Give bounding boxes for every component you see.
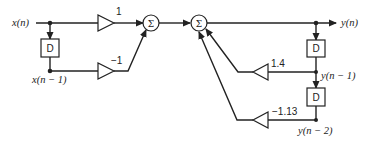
gain-triangle-a1 xyxy=(253,64,268,80)
y-n1-label: y(n − 1) xyxy=(320,70,356,82)
delay-block-y1: D xyxy=(307,40,325,57)
gain-a1-label: 1.4 xyxy=(271,58,285,69)
gain-a2-label: −1.13 xyxy=(272,106,298,117)
gain-triangle-b0 xyxy=(98,15,114,31)
gain-b0-label: 1 xyxy=(116,6,122,17)
input-signal-label: x(n) xyxy=(11,17,29,29)
sigma-icon: Σ xyxy=(148,19,154,29)
delay-y2-label: D xyxy=(312,92,319,103)
summer-2: Σ xyxy=(191,15,207,31)
gain-b1-label: −1 xyxy=(111,55,123,66)
delay-block-x: D xyxy=(41,39,59,57)
block-diagram: x(n) D x(n − 1) 1 −1 Σ Σ y(n) D y xyxy=(0,0,371,144)
delay-x-label: D xyxy=(46,43,53,54)
y-n2-label: y(n − 2) xyxy=(297,125,333,137)
x-n1-label: x(n − 1) xyxy=(31,74,67,86)
y-n-label: y(n) xyxy=(340,17,358,29)
delay-y1-label: D xyxy=(312,43,319,54)
delay-block-y2: D xyxy=(307,88,325,106)
gain-triangle-a2 xyxy=(253,112,268,128)
summer-1: Σ xyxy=(143,15,159,31)
sigma-icon: Σ xyxy=(196,19,202,29)
x-n-label: x(n) xyxy=(11,17,29,29)
a2-to-sum2-wire xyxy=(199,32,253,120)
